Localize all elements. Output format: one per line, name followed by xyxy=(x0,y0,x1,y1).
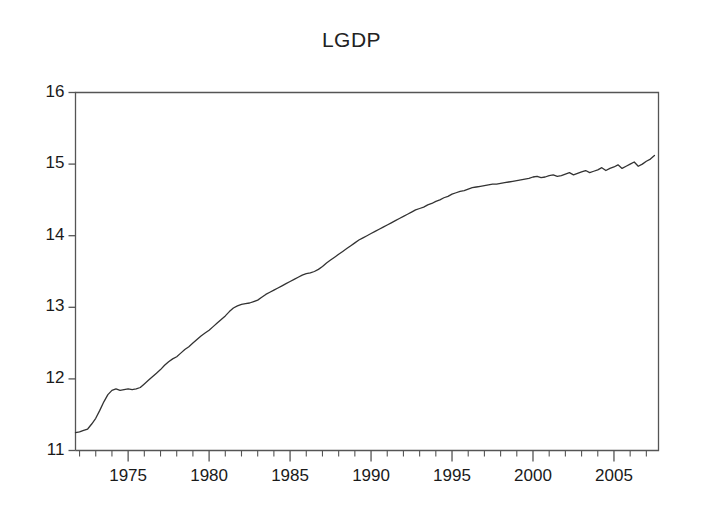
y-axis-major-ticks xyxy=(69,93,76,451)
line-chart-svg xyxy=(0,0,703,522)
y-axis-tick-label: 14 xyxy=(23,225,65,245)
x-axis-tick-label: 1995 xyxy=(417,466,487,486)
y-axis-tick-label: 12 xyxy=(23,368,65,388)
x-axis-tick-label: 1980 xyxy=(174,466,244,486)
y-axis-tick-label: 11 xyxy=(23,440,65,460)
x-axis-minor-ticks xyxy=(80,451,647,457)
x-axis-tick-label: 1985 xyxy=(255,466,325,486)
axis-frame xyxy=(76,93,659,451)
y-axis-tick-label: 16 xyxy=(23,82,65,102)
y-axis-tick-label: 15 xyxy=(23,153,65,173)
x-axis-tick-label: 1975 xyxy=(93,466,163,486)
x-axis-tick-label: 2005 xyxy=(579,466,649,486)
plot-area xyxy=(0,0,703,522)
x-axis-major-ticks xyxy=(128,451,614,462)
x-axis-tick-label: 1990 xyxy=(336,466,406,486)
data-series-lgdp xyxy=(76,156,655,433)
x-axis-tick-label: 2000 xyxy=(498,466,568,486)
chart-figure: LGDP 111213141516 1975198019851990199520… xyxy=(0,0,703,522)
y-axis-tick-label: 13 xyxy=(23,296,65,316)
